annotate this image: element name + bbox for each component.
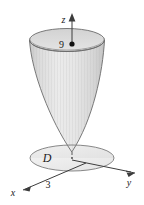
- math-figure-container: z 9 D 3 x y: [0, 0, 144, 205]
- disk-region-label: D: [42, 151, 52, 165]
- z-intercept-marker: [69, 41, 74, 46]
- x-axis-label: x: [10, 187, 16, 198]
- y-axis-label: y: [126, 177, 132, 188]
- x-intercept-value-label: 3: [46, 179, 51, 190]
- z-axis-label: z: [61, 14, 66, 25]
- paraboloid-top-rim: [30, 29, 105, 52]
- z-intercept-value-label: 9: [59, 39, 64, 50]
- paraboloid-surface: [28, 38, 106, 156]
- origin-point: [71, 157, 73, 159]
- paraboloid-diagram: z 9 D 3 x y: [0, 0, 144, 205]
